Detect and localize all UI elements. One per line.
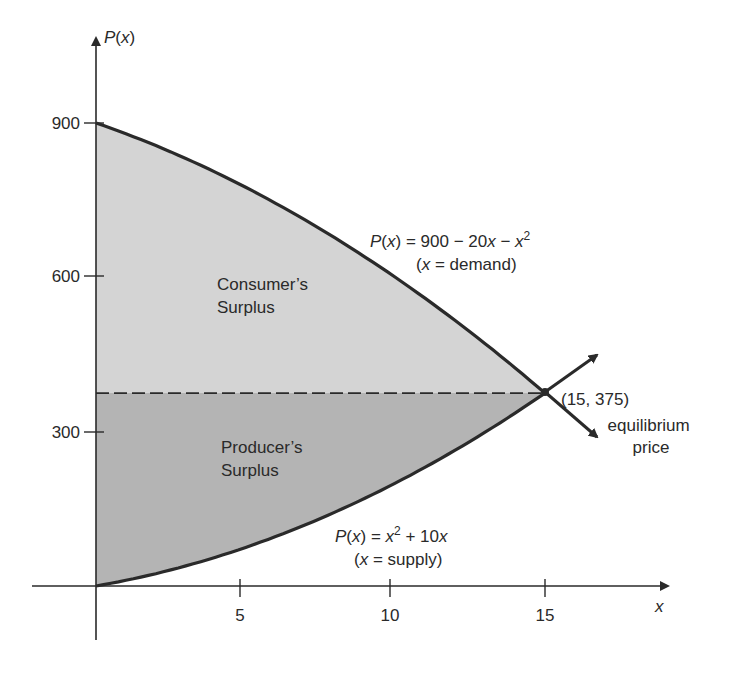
supply-equation-label: P(x) = x2 + 10x [335,524,448,546]
y-tick-label-900: 900 [52,114,80,133]
y-axis-label: P(x) [104,28,135,47]
y-tick-label-300: 300 [52,423,80,442]
equilibrium-point-label: (15, 375) [561,390,629,409]
x-tick-label-10: 10 [381,606,400,625]
chart-canvas: P(x) x 5 10 15 900 600 300 Consumer’s Su… [0,0,730,673]
equilibrium-price-label: equilibrium price [608,416,695,457]
equilibrium-point-marker [541,388,549,396]
x-tick-label-15: 15 [536,606,555,625]
x-ticks [240,579,545,597]
demand-note-label: (x = demand) [416,255,517,274]
x-tick-label-5: 5 [235,606,244,625]
demand-equation-label: P(x) = 900 − 20x − x2 [370,229,531,251]
demand-extension-arrow [545,355,597,392]
producer-surplus-region [96,393,545,586]
x-axis-label: x [654,597,664,616]
supply-note-label: (x = supply) [354,550,442,569]
y-tick-label-600: 600 [52,267,80,286]
